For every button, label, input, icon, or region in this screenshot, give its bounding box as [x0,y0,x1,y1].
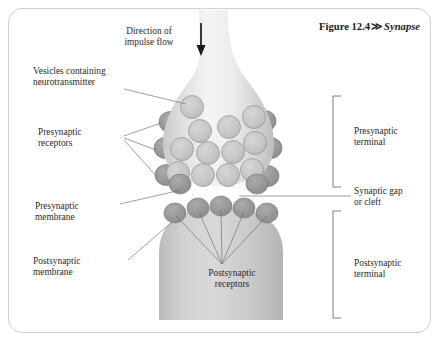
label-postsynaptic-membrane: Postsynaptic membrane [33,256,125,279]
leader-presynaptic-receptor [124,138,156,150]
label-presynaptic-terminal: Presynaptic terminal [354,126,434,149]
vesicle [192,164,215,187]
figure-separator: ≫ [370,21,384,32]
postsynaptic-receptor-bump [164,203,186,223]
vesicle [243,106,266,129]
label-presynaptic-receptors: Presynaptic receptors [38,127,122,150]
vesicle [197,142,220,165]
label-postsynaptic-receptors: Postsynaptic receptors [186,268,278,291]
synapse-diagram [0,0,441,343]
vesicle [222,141,245,164]
region-brackets [333,96,341,318]
vesicle [244,132,267,155]
vesicle [171,138,194,161]
figure-synapse: Figure 12.4≫Synapse Direction of impulse… [0,0,441,343]
label-synaptic-gap-or-cleft: Synaptic gap or cleft [354,186,436,209]
presynaptic-receptor-bump [169,174,191,194]
leader-presynaptic-membrane [120,190,181,204]
figure-title: Figure 12.4≫Synapse [319,20,420,32]
postsynaptic-receptor-bump [233,198,255,218]
vesicle [189,120,212,143]
label-direction-of-impulse-flow: Direction of impulse flow [106,26,192,49]
label-presynaptic-membrane: Presynaptic membrane [35,201,119,224]
figure-number: Figure 12.4 [319,21,370,32]
figure-name: Synapse [384,21,420,32]
label-vesicles-containing-neurotransmitter: Vesicles containing neurotransmitter [33,66,153,89]
postsynaptic-receptor-bump [256,203,278,223]
presynaptic-receptor-bump [246,174,268,194]
vesicle [218,116,241,139]
label-postsynaptic-terminal: Postsynaptic terminal [354,258,434,281]
leader-presynaptic-receptor [124,123,161,136]
vesicle [217,164,240,187]
postsynaptic-receptor-bump [187,198,209,218]
bracket-presynaptic-terminal [333,96,341,187]
vesicle [181,96,204,119]
leader-presynaptic-receptor [124,140,158,178]
leader-vesicles [124,89,186,104]
bracket-postsynaptic-terminal [333,211,341,318]
